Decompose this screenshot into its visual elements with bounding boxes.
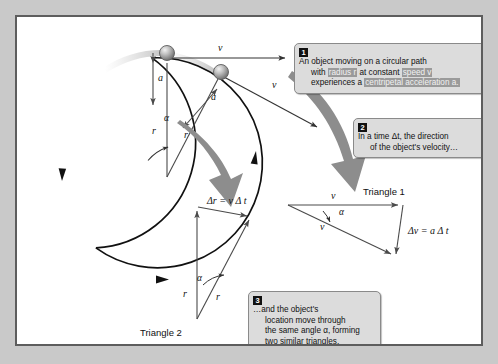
callout-line: location move through <box>253 316 375 326</box>
callout-line: An object moving on a circular path <box>299 57 483 67</box>
label-angle-alpha-circle: α <box>164 113 169 123</box>
label-triangle1-v-top: v <box>331 190 335 201</box>
callout-text-run: experiences a <box>311 78 364 87</box>
callout-line: of the object's velocity… <box>358 143 483 153</box>
label-triangle1-delta-v: Δv = a Δ t <box>408 225 449 236</box>
label-triangle2-r-right: r <box>216 291 220 302</box>
callout-text-run: In a time Δt, the direction <box>358 132 449 141</box>
callout-1-number: 1 <box>299 48 308 57</box>
label-radius-angled: r <box>184 129 188 140</box>
callout-1-text: An object moving on a circular pathwith … <box>299 57 483 88</box>
label-triangle1-alpha: α <box>339 207 344 217</box>
callout-line: In a time Δt, the direction <box>358 132 483 142</box>
callout-3-text: …and the object'slocation move throughth… <box>253 305 375 346</box>
label-acceleration-1: a <box>158 72 163 83</box>
label-triangle2-r-left: r <box>183 288 187 299</box>
callout-3-number: 3 <box>253 296 262 305</box>
callout-line: experiences a centripetal acceleration a… <box>299 78 483 88</box>
highlighted-term: centripetal acceleration a. <box>364 78 459 87</box>
figure-frame: v v a a r r α Triangle 1 v v α Δv = a Δ … <box>15 15 483 346</box>
label-velocity-1: v <box>218 42 222 53</box>
callout-text-run: of the object's velocity… <box>370 143 458 152</box>
callout-text-run: the same angle α, forming <box>265 326 360 335</box>
label-triangle2-alpha: α <box>197 273 202 283</box>
callout-line: two similar triangles. <box>253 337 375 346</box>
figure-page: v v a a r r α Triangle 1 v v α Δv = a Δ … <box>0 0 498 364</box>
label-radius-vertical: r <box>152 125 156 136</box>
callout-line: …and the object's <box>253 305 375 315</box>
triangle-1-caption: Triangle 1 <box>363 186 405 197</box>
object-position-2 <box>214 65 229 80</box>
callout-line: with radius r at constant speed v <box>299 68 483 78</box>
highlighted-term: radius r <box>328 68 357 77</box>
callout-text-run: at constant <box>357 68 402 77</box>
triangle-2-shape <box>197 207 249 319</box>
label-triangle1-v-lower: v <box>320 221 324 232</box>
callout-text-run: two similar triangles. <box>265 337 339 346</box>
label-acceleration-2: a <box>211 91 216 102</box>
callout-box-1[interactable]: 1An object moving on a circular pathwith… <box>294 43 483 94</box>
callout-text-run: location move through <box>265 316 346 325</box>
callout-text-run: with <box>311 68 328 77</box>
label-triangle2-delta-r: Δr = v Δ t <box>207 195 246 206</box>
triangle-1-shape <box>288 205 403 254</box>
callout-box-2[interactable]: 2In a time Δt, the directionof the objec… <box>353 118 483 158</box>
callout-text-run: …and the object's <box>253 305 318 314</box>
callout-2-text: In a time Δt, the directionof the object… <box>358 132 483 153</box>
callout-box-3[interactable]: 3…and the object'slocation move throught… <box>248 291 381 346</box>
highlighted-term: speed v <box>402 68 433 77</box>
circular-path <box>58 58 262 284</box>
callout-2-number: 2 <box>358 123 367 132</box>
triangle-2-caption: Triangle 2 <box>140 327 182 338</box>
object-position-1 <box>160 46 175 61</box>
angle-alpha-circle <box>147 147 169 160</box>
callout-text-run: An object moving on a circular path <box>299 57 427 66</box>
callout-line: the same angle α, forming <box>253 326 375 336</box>
label-velocity-2: v <box>272 79 276 90</box>
